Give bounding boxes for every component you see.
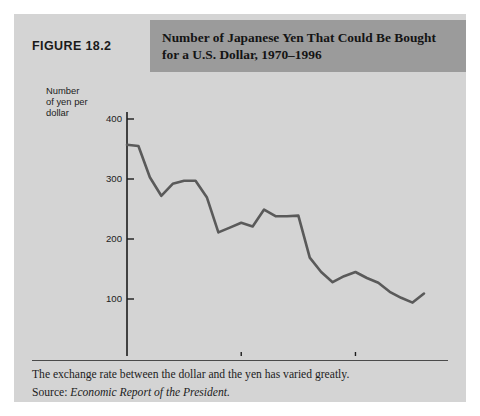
y-tick-label: 200 <box>106 233 122 244</box>
source-label: Source: <box>32 386 67 399</box>
y-tick-label: 300 <box>106 173 122 184</box>
y-axis-title-line: dollar <box>46 107 69 118</box>
y-tick-label: 400 <box>106 113 122 124</box>
figure-caption: The exchange rate between the dollar and… <box>32 366 452 384</box>
figure-title-band: Number of Japanese Yen That Could Be Bou… <box>150 20 466 72</box>
x-axis-ticks <box>241 352 355 356</box>
figure-label: FIGURE 18.2 <box>32 39 111 53</box>
y-tick-label: 100 <box>106 293 122 304</box>
footer-divider <box>32 360 448 361</box>
chart-plot-area: Numberof yen perdollar 0100200300400 197… <box>14 76 466 356</box>
figure-panel: FIGURE 18.2 Number of Japanese Yen That … <box>14 14 466 402</box>
figure-label-box: FIGURE 18.2 <box>14 20 150 72</box>
data-series-line <box>127 145 424 303</box>
y-axis-title: Numberof yen perdollar <box>46 85 88 118</box>
y-axis-title-line: Number <box>46 85 79 96</box>
line-chart: Numberof yen perdollar 0100200300400 197… <box>14 76 466 356</box>
y-axis-title-line: of yen per <box>46 96 88 107</box>
figure-header: FIGURE 18.2 Number of Japanese Yen That … <box>14 20 466 72</box>
figure-source: Source: Economic Report of the President… <box>32 384 452 402</box>
y-tick-label: 0 <box>117 353 122 356</box>
source-title: Economic Report of the President. <box>70 386 230 399</box>
figure-title: Number of Japanese Yen That Could Be Bou… <box>162 29 452 63</box>
y-axis-tick-labels: 0100200300400 <box>106 113 122 356</box>
figure-footer: The exchange rate between the dollar and… <box>32 366 452 402</box>
